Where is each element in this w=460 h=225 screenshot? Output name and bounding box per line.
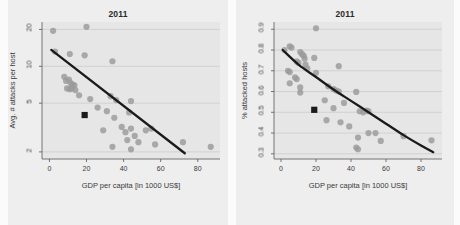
y-tick-label: 0.3 — [258, 143, 265, 161]
scatter-point — [288, 44, 294, 50]
panel-avg-attacks-per-host: 2011 Avg. # attacks per host GDP per cap… — [8, 0, 228, 225]
x-tick-label: 20 — [304, 165, 328, 172]
y-tick-label: 0.7 — [258, 60, 265, 78]
scatter-point — [128, 125, 134, 131]
panel-right-plot-area — [274, 22, 442, 159]
scatter-point — [341, 100, 347, 106]
scatter-point — [355, 135, 361, 141]
highlighted-country-marker — [311, 107, 317, 113]
scatter-point — [180, 139, 186, 145]
scatter-point — [83, 24, 89, 30]
scatter-point — [143, 127, 149, 133]
scatter-point — [311, 55, 317, 61]
scatter-point — [119, 124, 125, 130]
scatter-point — [346, 123, 352, 129]
x-tick-label: 60 — [149, 165, 173, 172]
scatter-point — [353, 89, 359, 95]
y-tick-label: 0.8 — [258, 40, 265, 58]
scatter-point — [302, 56, 308, 62]
scatter-point — [124, 137, 130, 143]
scatter-point — [128, 146, 134, 152]
scatter-point — [152, 141, 158, 147]
y-tick-label: 10 — [26, 56, 33, 74]
scatter-point — [365, 130, 371, 136]
y-tick-label: 0.4 — [258, 123, 265, 141]
scatter-point — [378, 138, 384, 144]
y-tick-label: 5 — [26, 93, 33, 111]
scatter-point — [122, 129, 128, 135]
scatter-point — [109, 144, 115, 150]
scatter-point — [95, 104, 101, 110]
scatter-point — [287, 69, 293, 75]
panel-right-x-axis-label: GDP per capita [in 1000 US$] — [274, 181, 442, 190]
scatter-point — [330, 105, 336, 111]
scatter-point — [208, 144, 214, 150]
y-tick-label: 20 — [26, 19, 33, 37]
x-tick-label: 20 — [75, 165, 99, 172]
panel-right-y-axis-label: % attacked hosts — [240, 40, 249, 140]
scatter-point — [72, 87, 78, 93]
x-tick-label: 0 — [269, 165, 293, 172]
highlighted-country-marker — [82, 112, 88, 118]
scatter-point — [128, 98, 134, 104]
scatter-point — [297, 89, 303, 95]
scatter-point — [336, 63, 342, 69]
trend-line — [51, 50, 185, 153]
scatter-point — [135, 139, 141, 145]
scatter-point — [337, 119, 343, 125]
scatter-point — [100, 127, 106, 133]
panel-left-y-axis-label: Avg. # attacks per host — [8, 40, 17, 140]
scatter-point — [294, 76, 300, 82]
x-tick-label: 0 — [37, 165, 61, 172]
y-tick-label: 0.5 — [258, 102, 265, 120]
scatter-point — [87, 96, 93, 102]
x-tick-label: 60 — [374, 165, 398, 172]
scatter-point — [109, 58, 115, 64]
scatter-point — [322, 97, 328, 103]
scatter-point — [82, 52, 88, 58]
x-tick-label: 40 — [112, 165, 136, 172]
scatter-point — [67, 51, 73, 57]
scatter-point — [132, 133, 138, 139]
scatter-point — [111, 115, 117, 121]
y-tick-label: 2 — [26, 141, 33, 159]
y-tick-label: 0.6 — [258, 81, 265, 99]
scatter-point — [104, 108, 110, 114]
panel-percent-attacked-hosts: 2011 % attacked hosts GDP per capita [in… — [236, 0, 454, 225]
scatter-point — [355, 146, 361, 152]
y-tick-label: 0.9 — [258, 19, 265, 37]
panel-left-scatter-svg — [42, 22, 220, 159]
panel-left-x-axis-label: GDP per capita [in 1000 US$] — [42, 181, 220, 190]
x-tick-label: 80 — [186, 165, 210, 172]
figure-container: 2011 Avg. # attacks per host GDP per cap… — [0, 0, 460, 225]
panel-right-scatter-svg — [274, 22, 442, 159]
scatter-point — [76, 92, 82, 98]
scatter-point — [313, 25, 319, 31]
scatter-point — [287, 80, 293, 86]
scatter-point — [372, 130, 378, 136]
x-tick-label: 80 — [409, 165, 433, 172]
x-tick-label: 40 — [339, 165, 363, 172]
panel-left-title: 2011 — [8, 9, 228, 19]
scatter-point — [428, 137, 434, 143]
panel-left-plot-area — [42, 22, 220, 159]
scatter-point — [50, 28, 56, 34]
panel-right-title: 2011 — [236, 9, 454, 19]
scatter-point — [323, 117, 329, 123]
